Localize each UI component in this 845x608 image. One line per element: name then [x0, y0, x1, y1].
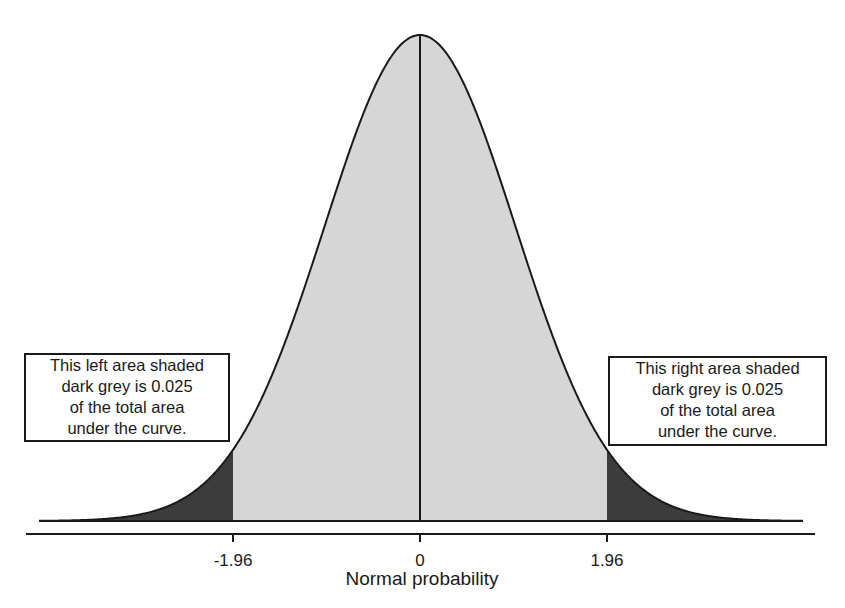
annotation-line: dark grey is 0.025 [28, 376, 226, 397]
normal-distribution-chart: -1.9601.96 Normal probability [0, 0, 845, 608]
annotation-line: under the curve. [28, 418, 226, 439]
x-axis: -1.9601.96 Normal probability [26, 534, 815, 589]
x-axis-ticks: -1.9601.96 [214, 534, 624, 570]
x-tick-label: -1.96 [214, 551, 253, 570]
plot-area [39, 35, 803, 521]
right-tail-annotation: This right area shaded dark grey is 0.02… [608, 356, 827, 446]
x-tick-label: 1.96 [590, 551, 623, 570]
annotation-line: of the total area [28, 397, 226, 418]
annotation-line: dark grey is 0.025 [612, 379, 823, 400]
x-axis-title: Normal probability [345, 568, 499, 589]
annotation-line: This left area shaded [28, 355, 226, 376]
annotation-line: under the curve. [612, 421, 823, 442]
left-tail-annotation: This left area shaded dark grey is 0.025… [24, 353, 230, 442]
left-tail-region [39, 450, 233, 521]
right-tail-region [607, 450, 803, 521]
annotation-line: of the total area [612, 400, 823, 421]
annotation-line: This right area shaded [612, 358, 823, 379]
